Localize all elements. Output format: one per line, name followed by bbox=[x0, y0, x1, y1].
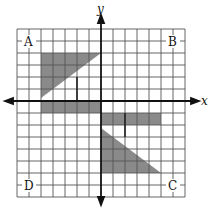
label-c: C bbox=[168, 179, 177, 193]
coordinate-grid-diagram: x y A B C D bbox=[0, 0, 212, 208]
x-axis-arrow-left-icon bbox=[5, 98, 13, 104]
x-axis-label: x bbox=[201, 94, 208, 108]
y-axis-arrow-up-icon bbox=[98, 15, 104, 23]
label-d: D bbox=[24, 179, 34, 193]
label-a: A bbox=[23, 35, 33, 49]
strip-left-below-x-axis bbox=[41, 101, 101, 113]
strip-right-below-x-axis bbox=[101, 113, 161, 125]
x-axis-arrow-right-icon bbox=[191, 98, 199, 104]
y-axis-label: y bbox=[96, 2, 104, 16]
triangle-lower-right bbox=[101, 128, 161, 173]
triangle-upper-left bbox=[41, 53, 101, 98]
y-axis-arrow-down-icon bbox=[98, 197, 104, 205]
label-b: B bbox=[168, 35, 177, 49]
